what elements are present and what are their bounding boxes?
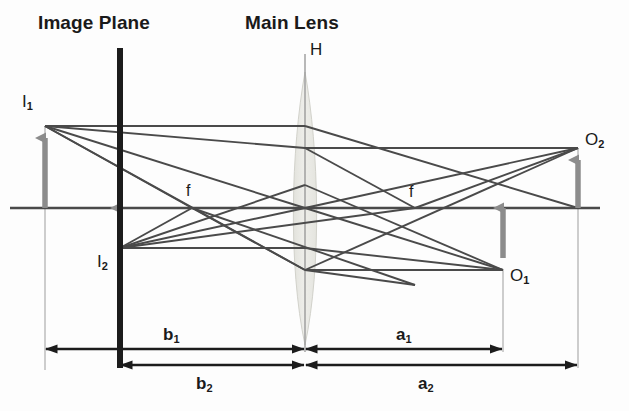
dimension-label-b1: b1 [163, 325, 180, 345]
focal-point-label-right-f: f [409, 183, 413, 201]
dimension-label-b1-sub: 1 [173, 333, 179, 345]
label-O2-sub: 2 [598, 138, 604, 150]
optics-diagram-svg [0, 0, 629, 411]
label-O1-base: O [510, 266, 523, 285]
label-I2-sub: 2 [102, 260, 108, 272]
focal-point-label-left-f: f [186, 182, 190, 200]
dimension-label-b1-base: b [163, 325, 173, 344]
dimension-label-b2: b2 [196, 374, 213, 394]
label-I2: I2 [97, 252, 108, 272]
label-I1: I1 [22, 92, 33, 112]
label-O2-base: O [585, 130, 598, 149]
dimension-label-a2-sub: 2 [427, 382, 433, 394]
dimension-label-a1-sub: 1 [405, 333, 411, 345]
image-plane-title: Image Plane [38, 12, 150, 34]
label-I1-sub: 1 [27, 100, 33, 112]
dimension-label-b2-base: b [196, 374, 206, 393]
dimension-label-b2-sub: 2 [206, 382, 212, 394]
principal-plane-label-H: H [310, 40, 322, 60]
main-lens-title: Main Lens [245, 12, 339, 34]
dimension-label-a1: a1 [396, 325, 412, 345]
ray-diagram-canvas: Image Plane Main Lens H f f I1 I2 O1 O2 … [0, 0, 629, 411]
dimension-label-a2: a2 [418, 374, 434, 394]
label-O2: O2 [585, 130, 604, 150]
label-O1-sub: 1 [523, 274, 529, 286]
dimension-lines [46, 349, 577, 365]
label-O1: O1 [510, 266, 529, 286]
